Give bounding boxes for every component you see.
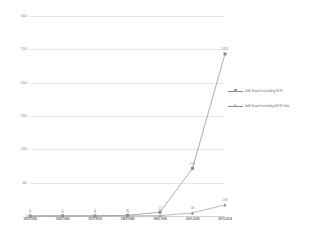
y-axis-ticks: 050010001500200025003000 — [0, 16, 27, 216]
series-line — [30, 54, 225, 216]
data-point-label: 0 — [29, 210, 31, 214]
legend-marker-triangle-icon — [228, 104, 243, 109]
x-axis-tick-label: 1990-1999 — [153, 217, 167, 221]
x-axis-tick-label: 1950-1959 — [23, 217, 37, 221]
data-point-label: 6 — [159, 209, 161, 213]
data-point-label: 1 — [127, 209, 129, 213]
legend-label-0: GxE Search excluding NOS — [245, 89, 283, 93]
legend-marker-square-icon — [228, 89, 243, 94]
data-point-label: 46 — [191, 206, 194, 210]
x-axis-tick-label: 2010-2014 — [218, 217, 232, 221]
legend-item-1[interactable]: GxE Search including NOS Only — [228, 103, 314, 109]
legend-label-1: GxE Search including NOS Only — [245, 104, 289, 108]
y-axis-tick-label: 1500 — [21, 114, 27, 118]
data-point-label: 0 — [62, 210, 64, 214]
y-axis-tick-label: 3000 — [21, 14, 27, 18]
y-axis-tick-label: 2000 — [21, 81, 27, 85]
series-layer — [30, 16, 225, 216]
y-axis-tick-label: 2500 — [21, 47, 27, 51]
data-point-marker[interactable] — [224, 52, 227, 55]
x-axis-tick-label: 1970-1979 — [88, 217, 102, 221]
data-point-label: 714 — [190, 162, 195, 166]
x-axis-tick-label: 1960-1969 — [56, 217, 70, 221]
data-point-label: 168 — [223, 198, 228, 202]
data-point-label: 0 — [94, 210, 96, 214]
data-point-label: 2431 — [222, 47, 228, 51]
x-axis-tick-label: 1980-1989 — [121, 217, 135, 221]
legend-item-0[interactable]: GxE Search excluding NOS — [228, 88, 314, 94]
x-axis-tick-label: 2000-2009 — [186, 217, 200, 221]
y-axis-tick-label: 1000 — [21, 147, 27, 151]
data-point-marker[interactable] — [191, 167, 194, 170]
plot-area: 123115771424310001646168 — [30, 16, 225, 216]
x-axis-ticks: 1950-19591960-19691970-19791980-19891990… — [30, 217, 225, 227]
chart-legend: GxE Search excluding NOS GxE Search incl… — [228, 88, 314, 118]
chart-container: 050010001500200025003000 123115771424310… — [0, 0, 315, 236]
y-axis-tick-label: 500 — [22, 181, 27, 185]
